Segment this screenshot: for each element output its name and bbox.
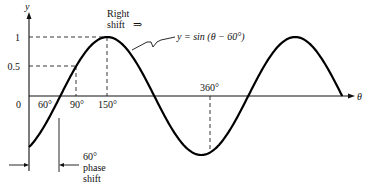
x-tick-90: 90° bbox=[70, 99, 84, 110]
x-tick-150: 150° bbox=[98, 99, 117, 110]
phase-shift-label-line2: phase bbox=[83, 162, 106, 173]
phase-shift-label-line3: shift bbox=[83, 173, 101, 184]
right-shift-label-line2: shift bbox=[107, 19, 125, 30]
right-shift-arrow-icon: ⇒ bbox=[133, 18, 142, 30]
x-tick-360: 360° bbox=[200, 82, 219, 93]
dashed-guides bbox=[29, 37, 210, 152]
origin-label: 0 bbox=[16, 99, 21, 110]
right-shift-label-line1: Right bbox=[107, 8, 129, 19]
phase-shift-label-line1: 60° bbox=[83, 151, 97, 162]
y-axis-label: y bbox=[24, 1, 30, 12]
equation-label: y = sin (θ − 60°) bbox=[176, 31, 245, 43]
y-tick-0.5: 0.5 bbox=[8, 61, 21, 72]
x-tick-60: 60° bbox=[38, 99, 52, 110]
equation-leader bbox=[132, 37, 175, 50]
x-axis-arrow-icon bbox=[348, 94, 355, 99]
x-axis-label: θ bbox=[357, 91, 362, 102]
phase-shift-diagram: y 1 0.5 0 60° 90° 150° 360° θ Right shif… bbox=[0, 0, 367, 187]
y-axis-arrow-icon bbox=[27, 12, 32, 19]
y-tick-1: 1 bbox=[15, 32, 20, 43]
